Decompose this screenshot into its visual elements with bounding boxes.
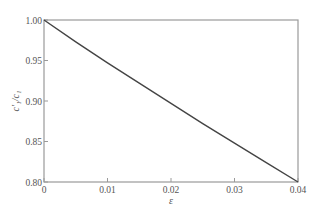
x-tick-label: 0.03 xyxy=(226,185,243,195)
x-tick-label: 0.04 xyxy=(290,185,307,195)
data-line xyxy=(44,20,298,182)
y-axis-label: c'₁/c₁ xyxy=(10,91,21,112)
x-axis-label: ε xyxy=(169,195,173,206)
y-axis: 0.800.850.900.951.00 xyxy=(25,16,48,188)
x-tick-label: 0 xyxy=(42,185,47,195)
y-tick-label: 1.00 xyxy=(25,16,42,26)
plot-frame xyxy=(44,20,298,182)
y-tick-label: 0.80 xyxy=(25,178,42,188)
line-chart: 0.800.850.900.951.00 00.010.020.030.04 ε… xyxy=(0,0,313,211)
y-tick-label: 0.95 xyxy=(25,56,42,66)
x-tick-label: 0.02 xyxy=(163,185,180,195)
x-axis: 00.010.020.030.04 xyxy=(42,178,307,195)
x-tick-label: 0.01 xyxy=(99,185,116,195)
y-tick-label: 0.90 xyxy=(25,97,42,107)
y-tick-label: 0.85 xyxy=(25,137,42,147)
